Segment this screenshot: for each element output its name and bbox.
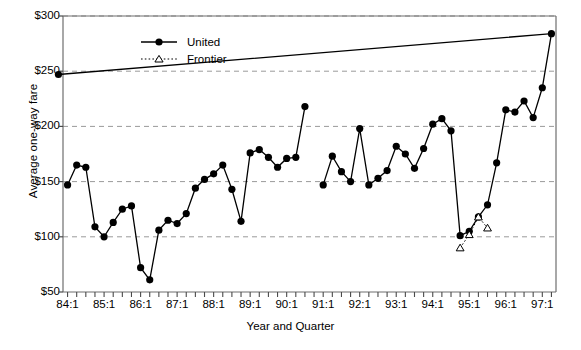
united-data-point <box>548 30 555 37</box>
united-data-point <box>174 220 181 227</box>
united-data-point <box>520 97 527 104</box>
united-data-point <box>265 154 272 161</box>
united-data-point <box>356 125 363 132</box>
chart-container: Average one-way fare Year and Quarter $5… <box>0 0 581 350</box>
united-data-point <box>210 170 217 177</box>
united-data-point <box>338 168 345 175</box>
united-data-point <box>511 108 518 115</box>
united-data-point <box>329 153 336 160</box>
united-data-point <box>301 103 308 110</box>
united-data-point <box>237 218 244 225</box>
united-data-point <box>192 185 199 192</box>
united-data-point <box>539 84 546 91</box>
gridlines <box>63 16 556 237</box>
frontier-line <box>460 217 487 248</box>
y-axis-ticks <box>58 16 63 292</box>
united-data-point <box>146 276 153 283</box>
united-data-point <box>320 181 327 188</box>
united-data-point <box>155 227 162 234</box>
legend-label-frontier: Frontier <box>187 53 227 65</box>
legend-marker-united <box>155 38 162 45</box>
united-data-point <box>438 115 445 122</box>
united-data-point <box>247 149 254 156</box>
legend-label-united: United <box>187 36 220 48</box>
legend-marker-frontier <box>155 55 163 62</box>
united-data-point <box>530 114 537 121</box>
united-data-point <box>55 71 62 78</box>
united-data-point <box>411 165 418 172</box>
series-frontier <box>456 213 491 251</box>
united-data-point <box>119 206 126 213</box>
united-data-point <box>137 264 144 271</box>
united-data-point <box>493 159 500 166</box>
united-data-point <box>484 201 491 208</box>
united-data-point <box>256 146 263 153</box>
chart-plot-area: UnitedFrontier <box>0 0 581 350</box>
united-data-point <box>183 210 190 217</box>
united-data-point <box>347 178 354 185</box>
frontier-data-point <box>456 244 464 251</box>
united-data-point <box>100 233 107 240</box>
united-data-point <box>502 106 509 113</box>
united-data-point <box>64 181 71 188</box>
united-data-point <box>274 164 281 171</box>
united-data-point <box>128 202 135 209</box>
x-axis-ticks <box>68 292 552 297</box>
united-data-point <box>292 154 299 161</box>
united-data-point <box>365 181 372 188</box>
united-data-point <box>283 155 290 162</box>
axis-lines <box>63 16 556 292</box>
united-data-point <box>82 164 89 171</box>
united-data-point <box>73 161 80 168</box>
united-line <box>68 107 305 280</box>
united-data-point <box>164 217 171 224</box>
united-data-point <box>429 121 436 128</box>
united-data-point <box>374 175 381 182</box>
united-data-point <box>420 145 427 152</box>
united-data-point <box>384 167 391 174</box>
series-united <box>55 30 555 283</box>
united-data-point <box>110 219 117 226</box>
united-data-point <box>447 127 454 134</box>
chart-legend: UnitedFrontier <box>141 36 227 65</box>
united-data-point <box>219 161 226 168</box>
united-data-point <box>393 143 400 150</box>
united-data-point <box>91 223 98 230</box>
united-data-point <box>201 176 208 183</box>
united-data-point <box>402 150 409 157</box>
united-data-point <box>228 186 235 193</box>
united-data-point <box>457 232 464 239</box>
